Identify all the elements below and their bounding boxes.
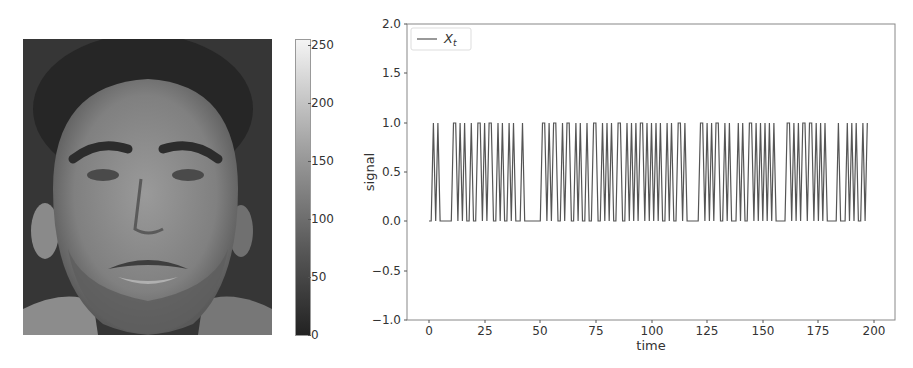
x-axis: 0 25 50 75 100 125 150 175 200 time [425,320,885,353]
y-tick-label: 0.5 [382,165,401,179]
y-tick-label: 1.0 [382,116,401,130]
x-tick-label: 150 [752,324,775,338]
x-tick-label: 200 [863,324,886,338]
y-tick-label: 1.5 [382,66,401,80]
x-tick-label: 100 [641,324,664,338]
x-tick-label: 125 [696,324,719,338]
x-tick-label: 25 [477,324,492,338]
x-tick-label: 0 [425,324,433,338]
x-tick-label: 50 [532,324,547,338]
y-tick-label: −0.5 [372,264,401,278]
y-tick-label: 2.0 [382,17,401,31]
y-axis-label: signal [362,153,377,191]
y-tick-label: 0.0 [382,214,401,228]
y-tick-label: −1.0 [372,313,401,327]
x-axis-label: time [636,338,665,353]
y-axis: 2.0 1.5 1.0 0.5 0.0 −0.5 −1.0 signal [362,17,407,327]
x-tick-label: 175 [807,324,830,338]
x-tick-label: 75 [588,324,603,338]
legend: Xt [411,28,471,50]
signal-chart: 2.0 1.5 1.0 0.5 0.0 −0.5 −1.0 signal 0 2… [0,0,913,368]
